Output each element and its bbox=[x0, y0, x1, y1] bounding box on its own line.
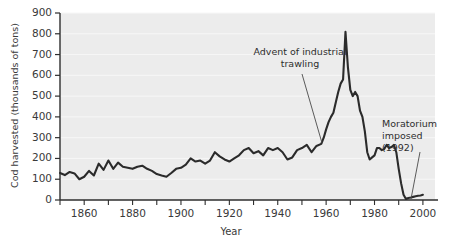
y-tick-label: 0 bbox=[10, 193, 52, 205]
x-tick-label: 1880 bbox=[111, 207, 155, 219]
annotation-moratorium-line3: (1992) bbox=[382, 142, 460, 154]
x-tick-label: 2000 bbox=[401, 207, 445, 219]
x-axis-tick-marks bbox=[60, 200, 423, 205]
y-axis-tick-marks bbox=[55, 13, 60, 200]
x-axis-label: Year bbox=[0, 226, 462, 237]
plot-background bbox=[60, 13, 435, 200]
y-tick-label: 200 bbox=[10, 151, 52, 163]
annotation-moratorium-line1: Moratorium bbox=[382, 118, 460, 130]
annotation-advent-of-industrial-trawling: Advent of industrial trawling bbox=[240, 46, 360, 70]
y-tick-label: 500 bbox=[10, 89, 52, 101]
x-tick-label: 1940 bbox=[256, 207, 300, 219]
annotation-moratorium-line2: imposed bbox=[382, 130, 460, 142]
x-tick-label: 1980 bbox=[353, 207, 397, 219]
x-tick-label: 1860 bbox=[62, 207, 106, 219]
y-tick-label: 400 bbox=[10, 110, 52, 122]
cod-harvest-chart: Cod harvested (thousands of tons) Year 0… bbox=[0, 0, 462, 244]
y-tick-label: 700 bbox=[10, 48, 52, 60]
annotation-trawling-line1: Advent of industrial bbox=[240, 46, 360, 58]
y-tick-label: 900 bbox=[10, 6, 52, 18]
y-tick-label: 600 bbox=[10, 68, 52, 80]
annotation-moratorium-imposed: Moratorium imposed (1992) bbox=[382, 118, 460, 154]
y-tick-label: 800 bbox=[10, 27, 52, 39]
x-tick-label: 1900 bbox=[159, 207, 203, 219]
x-tick-label: 1920 bbox=[207, 207, 251, 219]
y-tick-label: 300 bbox=[10, 131, 52, 143]
y-tick-label: 100 bbox=[10, 172, 52, 184]
x-tick-label: 1960 bbox=[304, 207, 348, 219]
annotation-trawling-line2: trawling bbox=[240, 58, 360, 70]
